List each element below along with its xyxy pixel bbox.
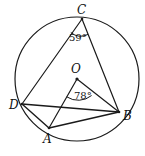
point-label-C: C <box>77 4 86 16</box>
vertex-dot-B <box>118 111 121 114</box>
vertex-dot-O <box>75 77 78 80</box>
vertex-dot-A <box>48 127 51 130</box>
geometry-canvas <box>0 0 145 156</box>
segment-DB <box>22 104 119 112</box>
geometry-figure: C O D B A 59° 78° <box>0 0 145 156</box>
vertex-dot-C <box>81 18 84 21</box>
vertex-dot-D <box>21 103 24 106</box>
point-label-A: A <box>43 133 52 145</box>
segment-OA <box>49 79 77 128</box>
angle-label-at-O: 78° <box>74 91 92 101</box>
point-label-B: B <box>123 110 132 122</box>
point-label-D: D <box>9 99 19 111</box>
point-label-O: O <box>71 63 81 75</box>
segment-AB <box>49 112 119 128</box>
angle-label-at-C: 59° <box>69 33 87 43</box>
